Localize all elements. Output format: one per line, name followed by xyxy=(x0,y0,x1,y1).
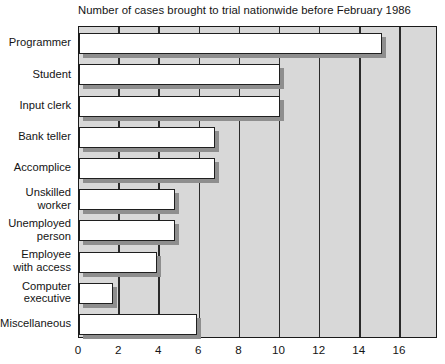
chart-page: Number of cases brought to trial nationw… xyxy=(0,0,445,364)
bar xyxy=(79,96,280,117)
bar-row xyxy=(79,64,285,85)
bar-row xyxy=(79,314,202,335)
bar xyxy=(79,314,197,335)
plot-area xyxy=(78,26,437,338)
bar-row xyxy=(79,158,220,179)
category-label: Unskilled worker xyxy=(0,186,71,211)
bar-row xyxy=(79,127,220,148)
bar xyxy=(79,189,175,210)
bar xyxy=(79,252,157,273)
x-tick-label: 2 xyxy=(103,343,133,356)
x-tick-label: 10 xyxy=(264,343,294,356)
bar xyxy=(79,220,175,241)
gridline-16 xyxy=(399,27,401,337)
x-tick-label: 8 xyxy=(223,343,253,356)
gridline-12 xyxy=(319,27,321,337)
category-label: Employee with access xyxy=(0,248,71,273)
x-tick-label: 12 xyxy=(304,343,334,356)
bar xyxy=(79,64,280,85)
x-tick-label: 16 xyxy=(384,343,414,356)
gridline-14 xyxy=(359,27,361,337)
bar-row xyxy=(79,189,180,210)
x-tick-label: 14 xyxy=(344,343,374,356)
category-label: Student xyxy=(0,68,71,81)
category-label: Computer executive xyxy=(0,280,71,305)
bar xyxy=(79,33,382,54)
x-tick-label: 6 xyxy=(183,343,213,356)
category-label: Programmer xyxy=(0,36,71,49)
category-label: Miscellaneous xyxy=(0,317,71,330)
x-tick-label: 4 xyxy=(143,343,173,356)
bar-row xyxy=(79,220,180,241)
bar-row xyxy=(79,252,162,273)
category-label: Bank teller xyxy=(0,130,71,143)
bar xyxy=(79,127,215,148)
category-label: Input clerk xyxy=(0,99,71,112)
x-tick-label: 0 xyxy=(63,343,93,356)
bar xyxy=(79,283,113,304)
bar-row xyxy=(79,283,118,304)
bar-row xyxy=(79,33,387,54)
bar-row xyxy=(79,96,285,117)
chart-title: Number of cases brought to trial nationw… xyxy=(78,4,438,17)
category-label: Accomplice xyxy=(0,161,71,174)
bar xyxy=(79,158,215,179)
category-label: Unemployed person xyxy=(0,217,71,242)
